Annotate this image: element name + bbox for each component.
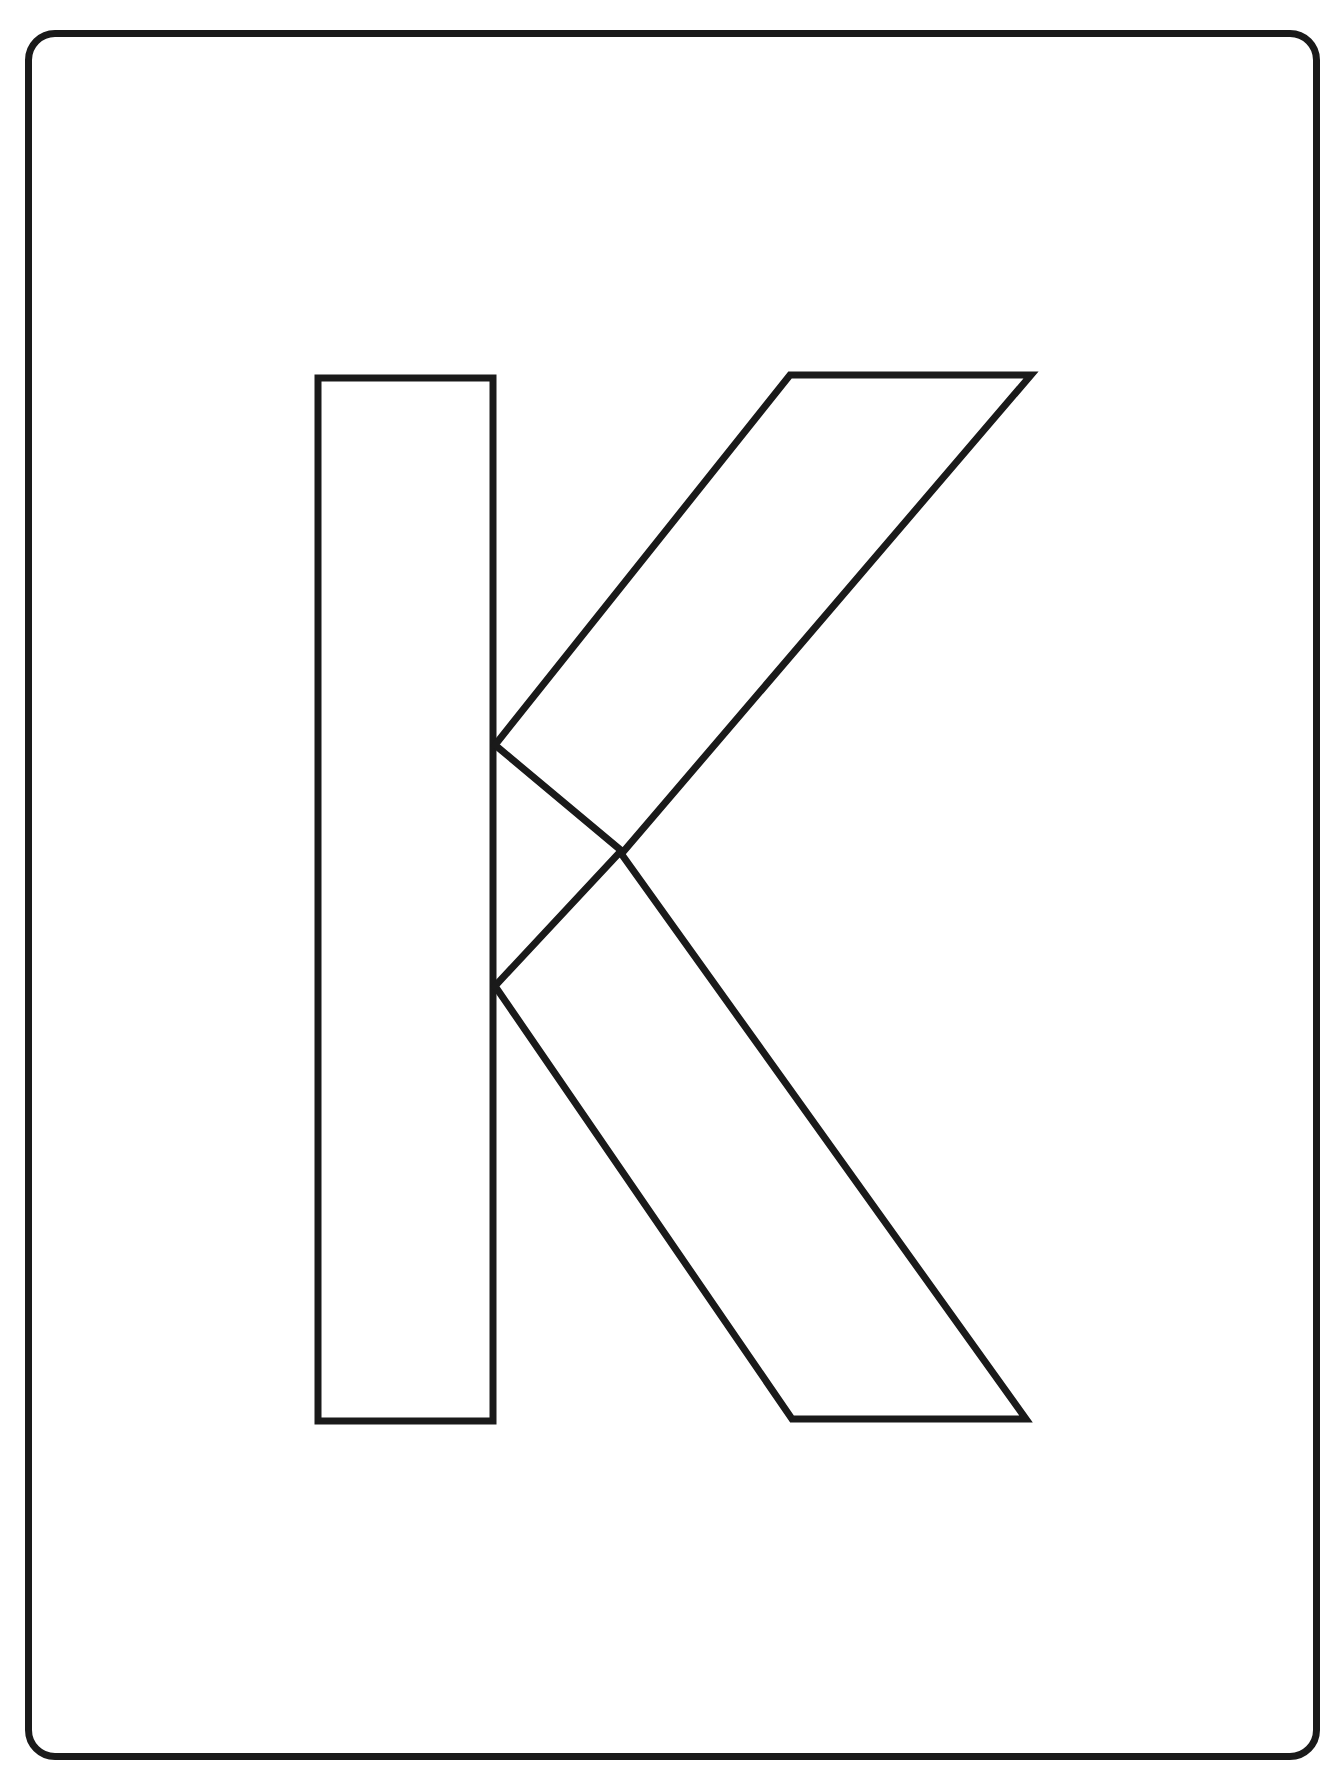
letter-k-stem: [318, 378, 493, 1421]
letter-k-outline-svg: [0, 0, 1344, 1772]
letter-k-upper-arm: [495, 375, 1031, 852]
letter-k-lower-arm: [495, 852, 1026, 1419]
letter-illustration: [0, 0, 1344, 1772]
worksheet-page: K: [0, 0, 1344, 1772]
